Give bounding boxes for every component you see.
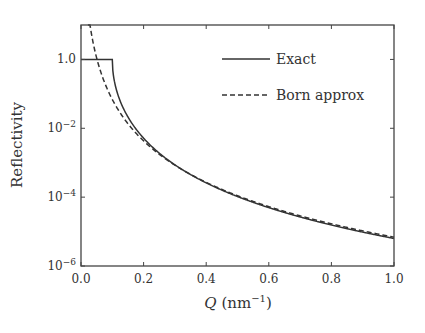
x-tick-label: 0.2 — [134, 272, 153, 286]
x-tick-label: 0.6 — [259, 272, 278, 286]
legend-label-born: Born approx — [276, 87, 364, 103]
x-axis-ticks: 0.00.20.40.60.81.0 — [71, 25, 403, 286]
x-tick-label: 0.8 — [322, 272, 341, 286]
legend: Exact Born approx — [222, 51, 364, 103]
plot-curves — [81, 25, 394, 238]
x-axis-label: Q(nm−1) — [204, 293, 272, 312]
born-approx-curve — [88, 25, 394, 237]
y-tick-label: 10−6 — [47, 257, 76, 273]
x-tick-label: 0.4 — [197, 272, 216, 286]
y-tick-label: 10−2 — [47, 119, 76, 135]
y-axis-ticks: 1.010−210−410−6 — [47, 52, 394, 273]
y-tick-label: 10−4 — [47, 188, 76, 204]
y-tick-label: 1.0 — [57, 52, 76, 66]
plot-frame — [81, 25, 394, 266]
legend-label-exact: Exact — [276, 51, 316, 67]
x-tick-label: 1.0 — [384, 272, 403, 286]
reflectivity-chart: 0.00.20.40.60.81.0 1.010−210−410−6 Refle… — [0, 0, 425, 333]
y-axis-label: Reflectivity — [8, 101, 26, 188]
x-tick-label: 0.0 — [71, 272, 90, 286]
